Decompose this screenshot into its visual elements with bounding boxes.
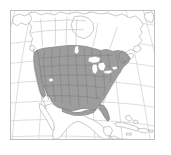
great-salt-lake xyxy=(48,78,53,82)
map-frame xyxy=(10,10,155,140)
map-canvas xyxy=(11,11,154,139)
puerto-rico-island xyxy=(149,130,153,132)
map-figure xyxy=(0,0,171,155)
bahamas-islands xyxy=(133,120,138,123)
lake-superior xyxy=(88,56,101,63)
jamaica-island xyxy=(126,133,131,135)
